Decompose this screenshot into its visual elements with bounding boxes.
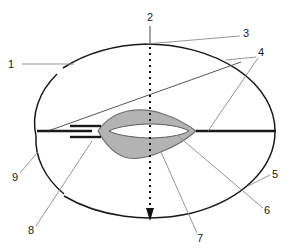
callout-label-5: 5	[272, 168, 278, 180]
callout-label-4: 4	[258, 46, 264, 58]
centre-axis-arrowhead	[146, 208, 154, 221]
leader-line-4a	[226, 57, 256, 60]
leader-line-6	[178, 136, 263, 208]
leader-line-4b	[208, 58, 258, 131]
leader-line-3	[146, 36, 240, 44]
callout-label-7: 7	[197, 232, 203, 244]
callout-label-3: 3	[243, 27, 249, 39]
callout-label-1: 1	[8, 58, 14, 70]
leader-line-9	[20, 152, 38, 173]
callout-label-2: 2	[147, 11, 153, 23]
figure-root: 1 2 3 4 5 6 7 8 9	[0, 0, 291, 251]
callout-label-8: 8	[28, 224, 34, 236]
outer-boundary-arc-bottom	[64, 196, 192, 218]
leader-line-5	[248, 175, 270, 186]
callout-label-9: 9	[12, 171, 18, 183]
callout-label-6: 6	[264, 204, 270, 216]
cross-section-diagram: 1 2 3 4 5 6 7 8 9	[0, 0, 291, 251]
leader-line-7	[161, 152, 197, 233]
leader-line-8	[36, 141, 92, 226]
outer-boundary-arc-lower-left	[36, 136, 64, 194]
outer-boundary-arc-left	[35, 74, 57, 136]
